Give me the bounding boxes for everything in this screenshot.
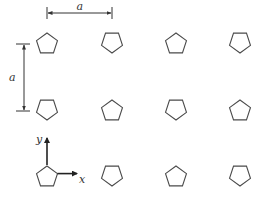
pentagon <box>166 33 187 53</box>
pentagon <box>102 100 123 120</box>
pentagon <box>166 166 187 186</box>
horizontal-dimension-label: a <box>77 1 84 12</box>
y-axis-label: y <box>36 134 42 145</box>
pentagon <box>37 100 58 120</box>
pentagon <box>230 33 251 53</box>
vertical-dimension-label: a <box>9 72 16 83</box>
coordinate-axes <box>47 138 77 174</box>
pentagon <box>37 33 58 53</box>
pentagon <box>102 166 123 186</box>
pentagon <box>230 166 251 186</box>
pentagon <box>230 100 251 120</box>
pentagon <box>102 33 123 53</box>
x-axis-label: x <box>79 174 85 185</box>
pentagon-grid <box>37 33 251 186</box>
pentagon <box>166 100 187 120</box>
pentagon <box>37 166 58 186</box>
vertical-dimension <box>16 44 30 111</box>
pentagon-lattice-diagram <box>0 0 274 205</box>
